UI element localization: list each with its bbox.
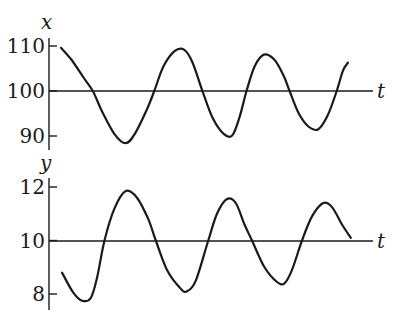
bottom-y-axis-label: y xyxy=(39,151,52,175)
bottom-ticks: 81012 xyxy=(20,175,57,306)
top-t-axis-label: t xyxy=(377,79,386,103)
top-tick-label-90: 90 xyxy=(20,124,45,148)
chart-figure: x t 90100110 y t 81012 xyxy=(0,0,396,325)
y-series-line xyxy=(62,191,351,302)
bottom-tick-label-10: 10 xyxy=(20,229,45,253)
top-y-axis-label: x xyxy=(41,10,52,34)
panel-y-vs-t: y t 81012 xyxy=(20,151,386,310)
panel-x-vs-t: x t 90100110 xyxy=(7,10,386,150)
bottom-tick-label-12: 12 xyxy=(20,175,45,199)
bottom-t-axis-label: t xyxy=(377,229,386,253)
top-tick-label-110: 110 xyxy=(7,34,45,58)
x-series-line xyxy=(61,48,348,143)
top-tick-label-100: 100 xyxy=(7,79,45,103)
bottom-tick-label-8: 8 xyxy=(32,282,45,306)
